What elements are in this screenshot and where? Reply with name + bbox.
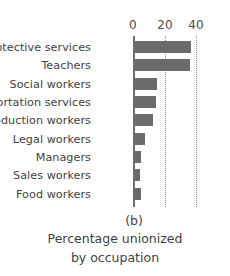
x-tick-label-40: 40 — [188, 18, 204, 32]
bar-transportation-services — [134, 96, 156, 108]
bar-protective-services — [134, 41, 191, 53]
bar-row: Teachers — [0, 56, 230, 74]
bar-row: Managers — [0, 148, 230, 166]
bar-row: Protective services — [0, 38, 230, 56]
category-label: Managers — [36, 150, 91, 163]
bar-legal-workers — [134, 133, 145, 145]
figure-caption: (b) Percentage unionized by occupation — [0, 212, 230, 267]
category-label: Production workers — [0, 114, 91, 127]
x-tick-label-0: 0 — [129, 18, 137, 32]
panel-letter: (b) — [0, 212, 230, 229]
bar-row: Legal workers — [0, 129, 230, 147]
caption-line-1: Percentage unionized — [0, 229, 230, 248]
bar-row: Social workers — [0, 75, 230, 93]
bar-food-workers — [134, 188, 141, 200]
chart-figure: 0 20 40 Protective services Teachers Soc… — [0, 0, 230, 276]
bar-managers — [134, 151, 141, 163]
category-label: Legal workers — [13, 132, 91, 145]
bar-rows: Protective services Teachers Social work… — [0, 38, 230, 203]
bar-teachers — [134, 59, 190, 71]
bar-row: Transportation services — [0, 93, 230, 111]
plot-area: 0 20 40 Protective services Teachers Soc… — [0, 0, 230, 212]
bar-production-workers — [134, 114, 153, 126]
bar-row: Sales workers — [0, 166, 230, 184]
bar-sales-workers — [134, 169, 140, 181]
category-label: Teachers — [41, 59, 91, 72]
x-tick-label-20: 20 — [157, 18, 173, 32]
category-label: Transportation services — [0, 96, 91, 109]
category-label: Protective services — [0, 41, 91, 54]
bar-row: Production workers — [0, 111, 230, 129]
bar-social-workers — [134, 78, 157, 90]
category-label: Sales workers — [13, 169, 91, 182]
bar-row: Food workers — [0, 184, 230, 202]
caption-line-2: by occupation — [0, 248, 230, 267]
category-label: Social workers — [10, 77, 91, 90]
category-label: Food workers — [16, 187, 91, 200]
